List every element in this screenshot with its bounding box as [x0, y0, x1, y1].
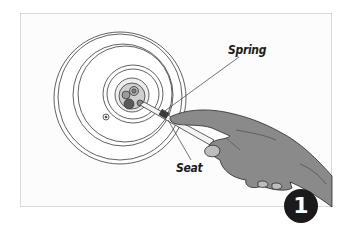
seat-label: Seat	[176, 161, 202, 175]
spring-label: Spring	[228, 43, 266, 57]
step-number-badge: 1	[284, 189, 318, 223]
plate-screw	[103, 114, 109, 120]
